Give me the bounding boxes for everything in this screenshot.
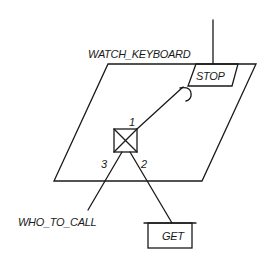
branch-1-arc-icon <box>180 88 191 101</box>
diagram-canvas: WATCH_KEYBOARD STOP 1 2 3 WHO_TO_CALL GE… <box>0 0 270 264</box>
branch-3-number: 3 <box>101 158 108 170</box>
entry-stop-label: STOP <box>196 70 226 82</box>
process-watch-keyboard-shape <box>54 64 256 181</box>
branch-1-line <box>137 87 183 129</box>
branch-2-number: 2 <box>140 158 147 170</box>
external-who-to-call-label: WHO_TO_CALL <box>18 216 97 228</box>
external-get-label: GET <box>162 230 185 242</box>
process-name-label: WATCH_KEYBOARD <box>88 48 191 60</box>
branch-2-line <box>130 152 172 223</box>
select-node-icon <box>114 129 137 152</box>
branch-1-number: 1 <box>129 116 135 128</box>
